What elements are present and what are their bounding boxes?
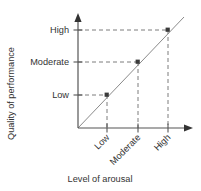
x-axis-title: Level of arousal: [68, 174, 133, 184]
x-tick-label-moderate: Moderate: [108, 132, 143, 167]
x-tick-label-low: Low: [92, 132, 111, 151]
y-axis-arrow-icon: [74, 13, 81, 22]
data-point-moderate: [136, 60, 140, 64]
data-point-low: [105, 93, 109, 97]
y-tick-label-moderate: Moderate: [30, 57, 69, 67]
data-point-high: [166, 28, 170, 32]
x-tick-label-high: High: [152, 132, 172, 152]
y-tick-label-high: High: [50, 25, 69, 35]
x-axis-arrow-icon: [184, 124, 193, 131]
y-axis-title: Quality of performance: [6, 47, 16, 140]
guide-lines-horizontal: [78, 30, 168, 95]
guide-lines-vertical: [107, 30, 168, 128]
arousal-performance-figure: High Moderate Low Low Moderate High Qual…: [0, 0, 201, 191]
y-tick-label-low: Low: [52, 90, 69, 100]
chart-canvas: High Moderate Low Low Moderate High Qual…: [0, 0, 201, 191]
